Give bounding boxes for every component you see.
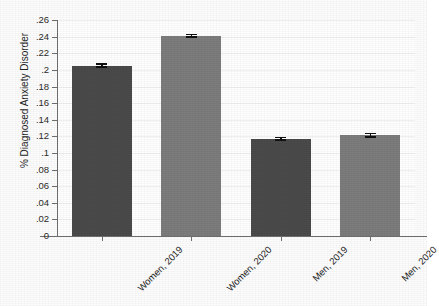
y-axis-line [57, 20, 58, 237]
x-tick-label-women-2020: Women, 2020 [225, 244, 274, 293]
error-bar-cap-upper [365, 133, 376, 135]
x-tick-mark [191, 236, 192, 241]
y-tick-label: .16 [36, 97, 49, 108]
x-tick-mark [281, 236, 282, 241]
y-tick-label: .12 [36, 130, 49, 141]
error-bar [362, 133, 378, 138]
y-tick-mark [52, 203, 57, 204]
error-bar-cap-lower [365, 136, 376, 138]
y-tick-label: .2 [41, 64, 49, 75]
gridline [57, 53, 415, 54]
y-tick-label: .22 [36, 47, 49, 58]
gridline [57, 20, 415, 21]
x-tick-label-women-2019: Women, 2019 [135, 244, 184, 293]
error-bar [273, 137, 289, 141]
error-bar [94, 63, 110, 68]
x-axis-line [40, 236, 427, 237]
y-tick-label: 0 [44, 230, 49, 241]
bar-women-2019 [72, 66, 132, 236]
gridline [57, 37, 415, 38]
x-tick-mark [102, 236, 103, 241]
y-tick-label: .14 [36, 114, 49, 125]
y-tick-mark [52, 53, 57, 54]
y-tick-mark [52, 87, 57, 88]
y-tick-label: .04 [36, 197, 49, 208]
y-tick-mark [52, 103, 57, 104]
bar-men-2020 [340, 135, 400, 236]
x-tick-mark [370, 236, 371, 241]
error-bar-cap-lower [96, 66, 107, 68]
x-tick-label-men-2019: Men, 2019 [310, 244, 350, 284]
y-tick-label: .02 [36, 213, 49, 224]
y-tick-mark [52, 70, 57, 71]
error-bar-cap-upper [96, 63, 107, 65]
y-tick-label: .26 [36, 14, 49, 25]
y-tick-label: .24 [36, 31, 49, 42]
y-tick-mark [52, 120, 57, 121]
y-tick-mark [52, 186, 57, 187]
y-tick-mark [52, 136, 57, 137]
error-bar-cap-lower [275, 139, 286, 141]
bar-men-2019 [251, 139, 311, 236]
bar-women-2020 [161, 36, 221, 236]
y-tick-mark [52, 20, 57, 21]
y-tick-mark [52, 170, 57, 171]
y-tick-label: .06 [36, 180, 49, 191]
error-bar [183, 34, 199, 38]
y-tick-label: .08 [36, 164, 49, 175]
x-tick-label-men-2020: Men, 2020 [399, 244, 439, 284]
plot-area [57, 20, 415, 236]
y-axis-title: % Diagnosed Anxiety Disorder [19, 0, 30, 211]
y-tick-mark [52, 37, 57, 38]
y-tick-label: .18 [36, 81, 49, 92]
y-tick-mark [52, 153, 57, 154]
error-bar-cap-lower [186, 36, 197, 38]
y-tick-mark [52, 236, 57, 237]
y-tick-label: .1 [41, 147, 49, 158]
y-tick-mark [52, 219, 57, 220]
